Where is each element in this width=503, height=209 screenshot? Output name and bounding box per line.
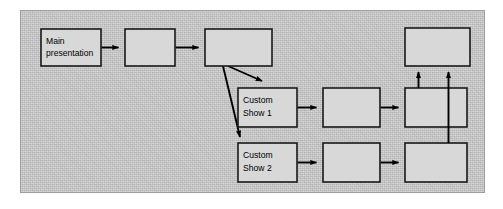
node-label-line1: Custom — [243, 150, 273, 160]
node-middle-slide-3[interactable] — [405, 88, 467, 127]
node-bottom-slide-2[interactable] — [323, 143, 380, 182]
node-bottom-slide-3[interactable] — [405, 143, 467, 182]
node-label-line2: Show 1 — [243, 108, 272, 118]
node-top-slide-2[interactable] — [125, 29, 175, 66]
edge-top3-to-show1 — [228, 66, 262, 81]
node-middle-slide-2[interactable] — [323, 88, 380, 127]
diagram-figure: Main presentation Custom Show 1 Custom S… — [0, 0, 503, 209]
node-label-line1: Custom — [243, 95, 273, 105]
node-top-slide-3[interactable] — [205, 29, 272, 66]
node-custom-show-2[interactable]: Custom Show 2 — [238, 143, 297, 182]
node-label-line2: Show 2 — [243, 163, 272, 173]
diagram-canvas: Main presentation Custom Show 1 Custom S… — [0, 0, 503, 209]
node-main-presentation[interactable]: Main presentation — [41, 29, 101, 66]
node-label-line2: presentation — [46, 48, 94, 58]
node-top-right-slide[interactable] — [405, 28, 470, 66]
node-custom-show-1[interactable]: Custom Show 1 — [238, 88, 297, 127]
node-label-line1: Main — [46, 36, 65, 46]
